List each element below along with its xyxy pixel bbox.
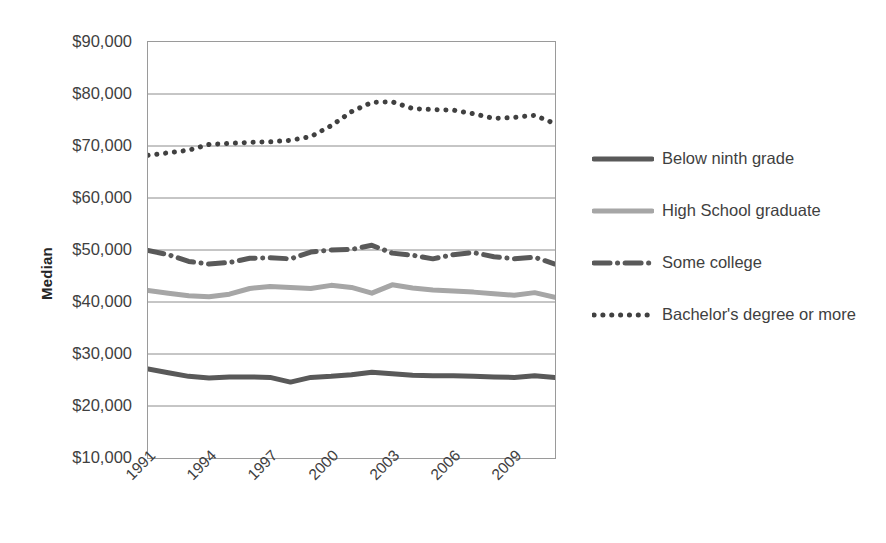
- y-axis-tick-labels: $90,000$80,000$70,000$60,000$50,000$40,0…: [20, 0, 132, 543]
- legend-swatch-icon: [592, 149, 654, 169]
- legend-item[interactable]: Some college: [592, 252, 882, 274]
- y-axis-tick-label: $90,000: [22, 33, 132, 50]
- plot-area: [147, 41, 556, 459]
- legend-label: Bachelor's degree or more: [662, 304, 856, 325]
- series-line: [148, 285, 555, 297]
- series-line: [148, 369, 555, 382]
- legend-swatch-icon: [592, 305, 654, 325]
- legend-label: Some college: [662, 252, 762, 273]
- y-axis-tick-label: $10,000: [22, 449, 132, 466]
- chart-container: Median $90,000$80,000$70,000$60,000$50,0…: [0, 0, 886, 543]
- legend-label: Below ninth grade: [662, 148, 794, 169]
- y-axis-tick-label: $20,000: [22, 397, 132, 414]
- chart-legend: Below ninth gradeHigh School graduateSom…: [592, 148, 882, 356]
- legend-label: High School graduate: [662, 200, 821, 221]
- legend-item[interactable]: High School graduate: [592, 200, 882, 222]
- legend-item[interactable]: Below ninth grade: [592, 148, 882, 170]
- y-axis-tick-label: $40,000: [22, 293, 132, 310]
- y-axis-tick-label: $70,000: [22, 137, 132, 154]
- series-line: [148, 245, 555, 264]
- series-line: [148, 102, 555, 156]
- y-axis-tick-label: $60,000: [22, 189, 132, 206]
- y-axis-tick-label: $30,000: [22, 345, 132, 362]
- y-axis-tick-label: $80,000: [22, 85, 132, 102]
- y-axis-tick-label: $50,000: [22, 241, 132, 258]
- legend-swatch-icon: [592, 201, 654, 221]
- legend-item[interactable]: Bachelor's degree or more: [592, 304, 882, 326]
- legend-swatch-icon: [592, 253, 654, 273]
- plot-svg: [148, 42, 555, 458]
